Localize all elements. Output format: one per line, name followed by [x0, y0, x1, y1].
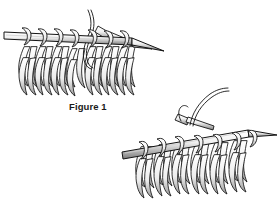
- knitting-diagram-lower: [118, 88, 279, 208]
- knitting-diagram-lower-svg: [118, 88, 279, 208]
- knitting-diagram-upper-svg: [0, 6, 170, 98]
- figure-caption: Figure 1: [69, 101, 107, 113]
- illustration-page: Figure 1: [0, 0, 279, 208]
- second-knitting-needle-lower: [175, 114, 214, 130]
- knitting-diagram-upper: [0, 6, 170, 98]
